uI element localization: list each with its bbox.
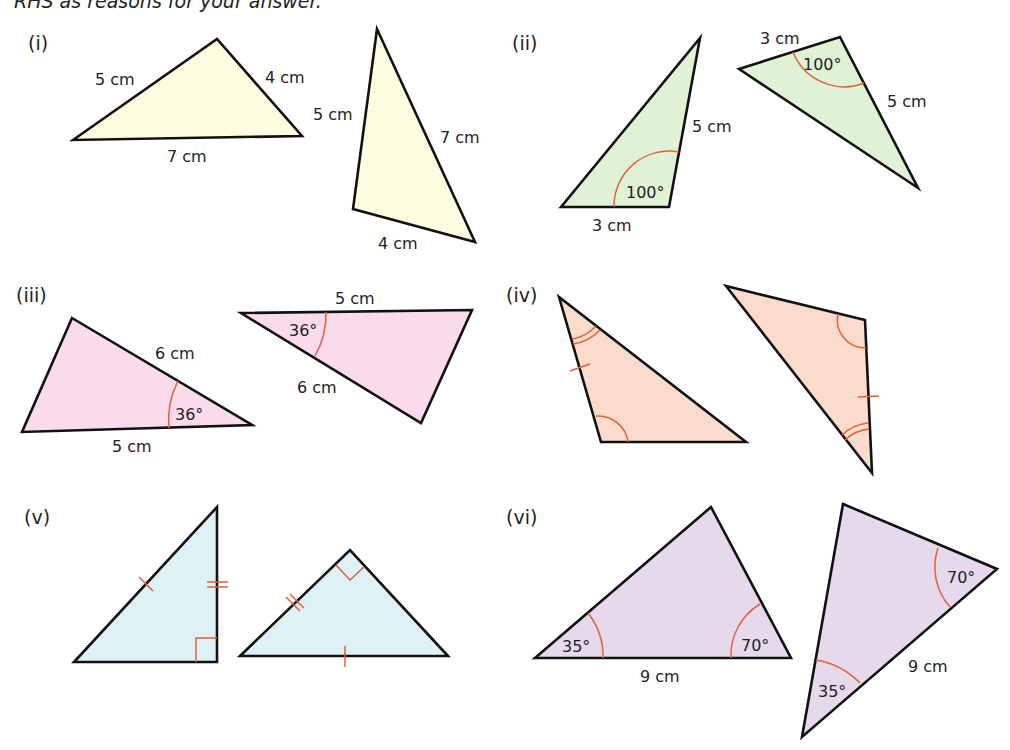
panel-label: (v) [24,506,50,528]
side-label: 5 cm [112,437,152,456]
side-label: 4 cm [378,234,418,253]
panel-i: (i) 5 cm 4 cm 7 cm 5 cm 7 cm 4 cm [28,29,480,253]
angle-label: 70° [947,568,975,587]
panel-ii: (ii) 100° 5 cm 3 cm 100° 3 cm 5 cm [512,29,927,235]
panel-label: (ii) [512,32,537,54]
congruent-triangles-figure: (i) 5 cm 4 cm 7 cm 5 cm 7 cm 4 cm (ii) 1… [0,0,1010,750]
triangle-ii-1 [561,38,700,207]
angle-label: 36° [175,405,203,424]
triangle-i-1 [73,39,302,140]
angle-label: 70° [741,636,769,655]
side-label: 5 cm [692,117,732,136]
triangle-iii-2 [241,310,472,423]
side-label: 5 cm [887,92,927,111]
panel-label: (iii) [16,284,47,306]
triangle-iii-1 [22,318,252,432]
side-label: 9 cm [908,657,948,676]
side-label: 7 cm [167,147,207,166]
panel-label: (i) [28,32,48,54]
angle-label: 35° [562,637,590,656]
side-label: 5 cm [95,70,135,89]
angle-label: 36° [289,321,317,340]
triangle-iv-2 [726,286,872,473]
panel-iv: (iv) [506,284,879,473]
side-label: 6 cm [297,378,337,397]
side-label: 9 cm [640,667,680,686]
panel-v: (v) [24,506,448,667]
panel-label: (vi) [506,506,537,528]
panel-vi: (vi) 35° 70° 9 cm 70° 35° 9 cm [506,504,997,737]
side-label: 4 cm [265,68,305,87]
side-label: 6 cm [155,344,195,363]
angle-label: 100° [626,183,665,202]
angle-label: 35° [818,682,846,701]
side-label: 7 cm [440,128,480,147]
side-label: 3 cm [592,216,632,235]
panel-iii: (iii) 36° 6 cm 5 cm 36° 5 cm 6 cm [16,284,472,456]
panel-label: (iv) [506,284,537,306]
triangle-iv-1 [559,297,746,442]
side-label: 5 cm [313,105,353,124]
triangle-vi-2 [802,504,997,737]
tick-mark [858,396,879,397]
side-label: 3 cm [760,29,800,48]
triangle-v-2 [240,550,448,656]
side-label: 5 cm [335,289,375,308]
angle-label: 100° [803,55,842,74]
